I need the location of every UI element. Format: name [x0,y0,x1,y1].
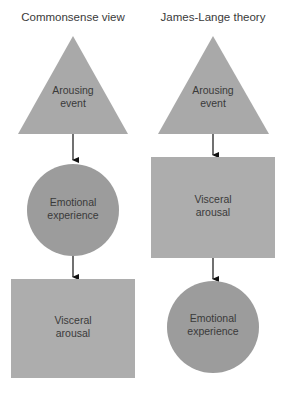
node-label: Arousing [192,84,234,96]
node-label: Emotional [190,312,237,324]
node-label: Visceral [194,193,231,205]
node-label: event [200,97,226,109]
column-title: James-Lange theory [161,11,266,23]
node-label: Arousing [52,84,94,96]
node-label: experience [187,325,239,337]
column-james-lange-theory: James-Lange theory Arousing event Viscer… [151,11,275,373]
node-label: Visceral [54,314,91,326]
column-commonsense-view: Commonsense view Arousing event Emotiona… [11,11,135,378]
column-title: Commonsense view [21,11,125,23]
node-label: Emotional [50,196,97,208]
node-label: event [60,97,86,109]
node-label: arousal [56,327,90,339]
node-label: experience [47,209,99,221]
node-label: arousal [196,206,230,218]
diagram-canvas: Commonsense view Arousing event Emotiona… [0,0,283,394]
